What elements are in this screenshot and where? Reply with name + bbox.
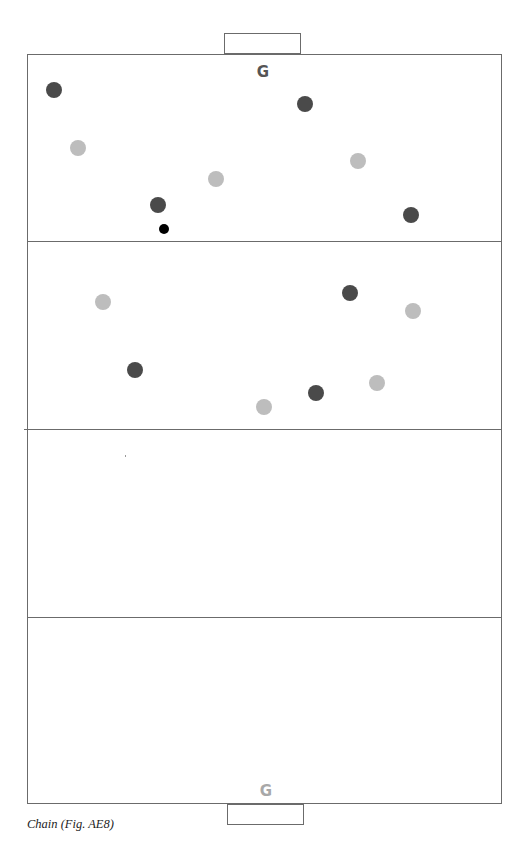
speck-mark: [125, 455, 126, 457]
player-marker-light: [256, 399, 272, 415]
player-marker-light: [350, 153, 366, 169]
top-goal-box: [224, 33, 301, 54]
third-line-1: [27, 241, 502, 242]
player-marker-dark: [127, 362, 143, 378]
player-marker-dark: [150, 197, 166, 213]
player-marker-dark: [342, 285, 358, 301]
player-marker-light: [405, 303, 421, 319]
top-goal-label: G: [253, 63, 273, 81]
figure-caption: Chain (Fig. AE8): [27, 817, 114, 832]
bottom-goal-box: [227, 804, 304, 825]
bottom-goal-label: G: [256, 782, 276, 800]
player-marker-dark: [46, 82, 62, 98]
third-line-3: [27, 617, 502, 618]
third-line-2: [24, 429, 502, 430]
ball-marker: [159, 224, 169, 234]
player-marker-light: [208, 171, 224, 187]
player-marker-dark: [297, 96, 313, 112]
player-marker-light: [70, 140, 86, 156]
player-marker-dark: [403, 207, 419, 223]
player-marker-light: [95, 294, 111, 310]
player-marker-dark: [308, 385, 324, 401]
player-marker-light: [369, 375, 385, 391]
